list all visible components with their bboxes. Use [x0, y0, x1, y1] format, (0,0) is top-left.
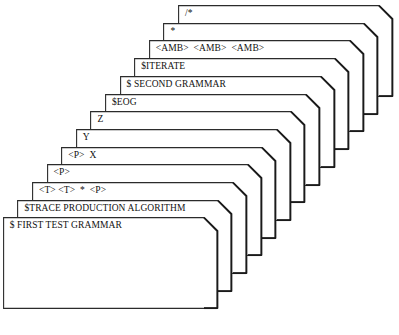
card-outline	[3, 217, 218, 309]
card-first-test-grammar: $ FIRST TEST GRAMMAR	[3, 217, 218, 309]
punch-card-deck: $ FIRST TEST GRAMMAR$TRACE PRODUCTION AL…	[0, 0, 399, 335]
